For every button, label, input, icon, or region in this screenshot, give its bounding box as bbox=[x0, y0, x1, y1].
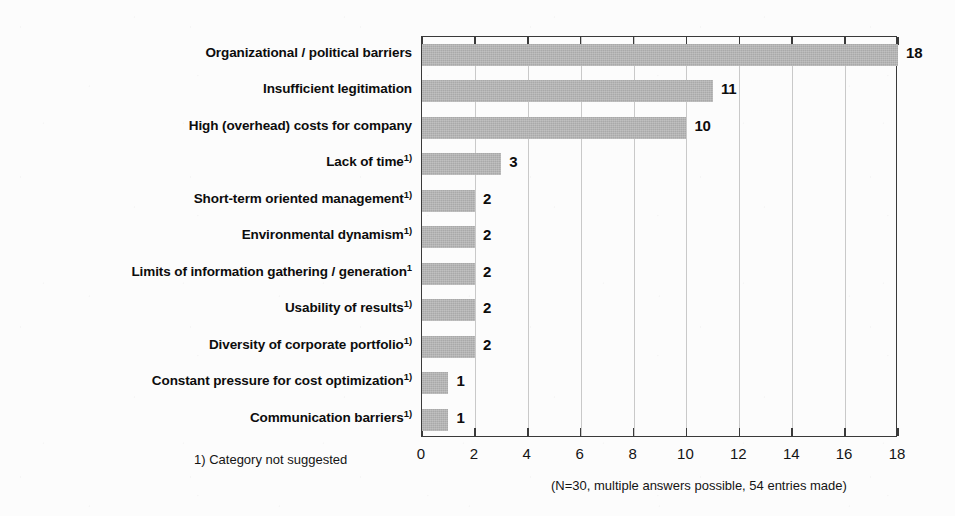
bar-row bbox=[422, 402, 896, 438]
bar-value-label: 3 bbox=[509, 153, 517, 170]
bar-row bbox=[422, 256, 896, 292]
category-label: Limits of information gathering / genera… bbox=[12, 264, 412, 279]
footnote-marker: 1) bbox=[404, 407, 412, 418]
plot-area bbox=[421, 36, 897, 437]
bar bbox=[422, 80, 713, 102]
footnote-marker: 1) bbox=[404, 152, 412, 163]
footnote: 1) Category not suggested bbox=[194, 452, 347, 467]
category-label-text: Lack of time bbox=[326, 154, 404, 169]
bar-row bbox=[422, 292, 896, 328]
bar bbox=[422, 117, 686, 139]
bar-value-label: 1 bbox=[456, 372, 464, 389]
category-label: Insufficient legitimation bbox=[12, 81, 412, 96]
axis-tick bbox=[897, 428, 899, 436]
bar-row bbox=[422, 219, 896, 255]
bar-row bbox=[422, 365, 896, 401]
footnote-marker: 1) bbox=[404, 371, 412, 382]
category-label-text: High (overhead) costs for company bbox=[189, 118, 412, 133]
bar-value-label: 2 bbox=[483, 299, 491, 316]
x-tick-label: 8 bbox=[613, 445, 653, 462]
x-tick-label: 10 bbox=[665, 445, 705, 462]
bar-row bbox=[422, 183, 896, 219]
x-tick-label: 2 bbox=[454, 445, 494, 462]
category-label-text: Diversity of corporate portfolio bbox=[209, 337, 404, 352]
bar-row bbox=[422, 146, 896, 182]
category-label-text: Constant pressure for cost optimization bbox=[152, 373, 404, 388]
category-label-text: Insufficient legitimation bbox=[263, 81, 412, 96]
footnote-marker: 1) bbox=[404, 225, 412, 236]
category-label: Organizational / political barriers bbox=[12, 45, 412, 60]
x-tick-label: 14 bbox=[771, 445, 811, 462]
chart-page: Organizational / political barriersInsuf… bbox=[0, 0, 955, 516]
bar-value-label: 10 bbox=[694, 117, 710, 134]
footnote-marker: 1) bbox=[404, 188, 412, 199]
bar bbox=[422, 190, 475, 212]
x-tick-label: 4 bbox=[507, 445, 547, 462]
category-label: High (overhead) costs for company bbox=[12, 118, 412, 133]
bar-row bbox=[422, 110, 896, 146]
bar bbox=[422, 44, 898, 66]
category-label: Constant pressure for cost optimization1… bbox=[12, 373, 412, 388]
bar-row bbox=[422, 37, 896, 73]
bar bbox=[422, 409, 448, 431]
category-label-text: Environmental dynamism bbox=[242, 227, 404, 242]
sample-size-note: (N=30, multiple answers possible, 54 ent… bbox=[551, 478, 847, 493]
bar-value-label: 2 bbox=[483, 263, 491, 280]
category-label-text: Communication barriers bbox=[250, 410, 404, 425]
category-label-text: Short-term oriented management bbox=[194, 191, 404, 206]
bar bbox=[422, 153, 501, 175]
category-label-text: Usability of results bbox=[285, 300, 404, 315]
x-tick-label: 18 bbox=[877, 445, 917, 462]
category-label: Diversity of corporate portfolio1) bbox=[12, 337, 412, 352]
category-label-text: Organizational / political barriers bbox=[205, 45, 412, 60]
bar bbox=[422, 372, 448, 394]
category-label: Environmental dynamism1) bbox=[12, 227, 412, 242]
bar bbox=[422, 299, 475, 321]
footnote-marker: 1) bbox=[404, 334, 412, 345]
x-tick-label: 12 bbox=[718, 445, 758, 462]
bar bbox=[422, 336, 475, 358]
bar-value-label: 2 bbox=[483, 190, 491, 207]
bar-value-label: 2 bbox=[483, 226, 491, 243]
category-label-text: Limits of information gathering / genera… bbox=[131, 264, 406, 279]
category-label: Usability of results1) bbox=[12, 300, 412, 315]
bar bbox=[422, 226, 475, 248]
footnote-marker: 1 bbox=[407, 261, 412, 272]
bar-value-label: 11 bbox=[721, 80, 736, 97]
category-label: Lack of time1) bbox=[12, 154, 412, 169]
category-label: Communication barriers1) bbox=[12, 410, 412, 425]
category-label: Short-term oriented management1) bbox=[12, 191, 412, 206]
x-tick-label: 16 bbox=[824, 445, 864, 462]
bar-row bbox=[422, 329, 896, 365]
x-tick-label: 6 bbox=[560, 445, 600, 462]
x-tick-label: 0 bbox=[401, 445, 441, 462]
bar-value-label: 18 bbox=[906, 44, 922, 61]
bar-value-label: 2 bbox=[483, 336, 491, 353]
bar-row bbox=[422, 73, 896, 109]
bar bbox=[422, 263, 475, 285]
bar-value-label: 1 bbox=[456, 409, 464, 426]
footnote-marker: 1) bbox=[404, 298, 412, 309]
